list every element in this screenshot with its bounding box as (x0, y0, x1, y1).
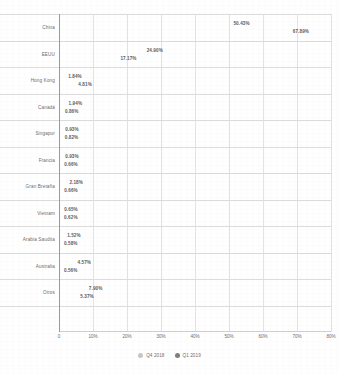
x-axis-tick-label: 50% (224, 334, 233, 339)
bar-value-label: 50.43% (233, 21, 249, 26)
bar-value-label: 0.93% (65, 153, 79, 158)
category-label: Vietnam (37, 210, 55, 215)
chart-row: Australia4.57%0.56% (59, 253, 331, 280)
bar-value-label: 0.58% (64, 241, 78, 246)
bar-value-label: 24.90% (147, 47, 163, 52)
chart-row: Arabia Saudita1.52%0.58% (59, 226, 331, 253)
bar-value-label: 4.81% (78, 82, 92, 87)
legend-item[interactable]: Q1 2019 (175, 353, 201, 358)
y-axis-line (59, 14, 60, 332)
x-axis-tick-label: 30% (156, 334, 165, 339)
bar-value-label: 1.52% (67, 233, 81, 238)
bar-group-item: 0.58% (60, 240, 62, 247)
bar-group-item: 4.81% (60, 81, 76, 88)
bar-group-item: 0.56% (60, 266, 62, 273)
bar-group-item: 17.17% (60, 54, 118, 61)
legend-label: Q1 2019 (183, 353, 201, 358)
chart-row: EEUU24.90%17.17% (59, 41, 331, 68)
chart-row: Vietnam0.65%0.62% (59, 200, 331, 227)
plot-area: China50.43%67.89%EEUU24.90%17.17%Hong Ko… (59, 14, 331, 332)
category-label: Canadá (38, 104, 55, 109)
bar-value-label: 2.18% (69, 180, 83, 185)
bar-value-label: 1.84% (68, 74, 82, 79)
bar-value-label: 0.86% (65, 108, 79, 113)
bar-value-label: 7.90% (89, 286, 103, 291)
bar-value-label: 0.93% (65, 127, 79, 132)
category-label: Arabia Saudita (23, 237, 55, 242)
bar-group-item: 4.57% (60, 258, 76, 265)
chart-legend: Q4 2018Q1 2019 (0, 353, 339, 358)
bar-group-item: 7.90% (60, 285, 87, 292)
chart-row: Otros7.90%5.37% (59, 279, 331, 306)
bar-value-label: 4.57% (78, 259, 92, 264)
row-separator (0, 306, 331, 307)
legend-swatch-icon (138, 353, 143, 358)
category-label: Gran Bretaña (26, 184, 55, 189)
bar-group-item: 1.52% (60, 232, 65, 239)
bar-group-item: 0.66% (60, 187, 62, 194)
x-axis-tick-label: 80% (326, 334, 335, 339)
legend-swatch-icon (175, 353, 180, 358)
chart-row: China50.43%67.89% (59, 14, 331, 41)
bar-value-label: 17.17% (120, 55, 136, 60)
bar-value-label: 0.62% (64, 214, 78, 219)
category-label: Singapur (35, 131, 55, 136)
bar-group-item: 1.84% (60, 73, 66, 80)
chart-row: Francia0.93%0.66% (59, 147, 331, 174)
x-axis-tick-label: 60% (258, 334, 267, 339)
category-label: Francia (39, 157, 55, 162)
bar-value-label: 0.82% (65, 135, 79, 140)
bar-group-item: 24.90% (60, 46, 145, 53)
category-label: Hong Kong (31, 78, 55, 83)
bar-value-label: 0.56% (64, 267, 78, 272)
bar-value-label: 1.94% (69, 100, 83, 105)
bar-chart: China50.43%67.89%EEUU24.90%17.17%Hong Ko… (0, 0, 339, 374)
bar-value-label: 0.66% (64, 188, 78, 193)
bar-group-item: 5.37% (60, 293, 78, 300)
bar-group-item: 0.93% (60, 152, 63, 159)
bar-group-item: 1.94% (60, 99, 67, 106)
category-label: EEUU (42, 51, 55, 56)
bar-value-label: 0.66% (64, 161, 78, 166)
x-axis-tick-label: 40% (190, 334, 199, 339)
x-axis-tick-label: 0 (58, 334, 61, 339)
bar-group-item: 0.65% (60, 205, 62, 212)
chart-row: Hong Kong1.84%4.81% (59, 67, 331, 94)
bar-group-item: 2.18% (60, 179, 67, 186)
bar-group-item: 0.66% (60, 160, 62, 167)
bar-group-item: 0.93% (60, 126, 63, 133)
bar-group-item: 0.62% (60, 213, 62, 220)
bar-group-item: 0.82% (60, 134, 63, 141)
category-label: Otros (43, 290, 55, 295)
legend-item[interactable]: Q4 2018 (138, 353, 164, 358)
bar-value-label: 67.89% (293, 29, 309, 34)
category-label: Australia (36, 263, 55, 268)
bar-value-label: 5.37% (80, 294, 94, 299)
bar-group-item: 0.86% (60, 107, 63, 114)
x-axis-tick-label: 20% (122, 334, 131, 339)
x-axis-tick-label: 70% (292, 334, 301, 339)
chart-row: Singapur0.93%0.82% (59, 120, 331, 147)
category-label: China (42, 25, 55, 30)
bar-value-label: 0.65% (64, 206, 78, 211)
legend-label: Q4 2018 (146, 353, 164, 358)
chart-row: Canadá1.94%0.86% (59, 94, 331, 121)
x-axis-tick-label: 10% (88, 334, 97, 339)
x-axis: 010%20%30%40%50%60%70%80% (59, 332, 331, 344)
bar-group-item: 67.89% (60, 28, 291, 35)
bar-group-item: 50.43% (60, 20, 231, 27)
gridline-vertical (331, 14, 332, 332)
chart-row: Gran Bretaña2.18%0.66% (59, 173, 331, 200)
